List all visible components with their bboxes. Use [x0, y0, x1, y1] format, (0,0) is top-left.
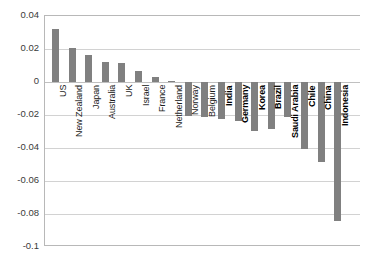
- y-axis-tick-label: -0.08: [0, 208, 39, 218]
- bar: [218, 82, 225, 119]
- bar: [168, 81, 175, 82]
- bar: [185, 82, 192, 116]
- bar: [152, 77, 159, 82]
- bar-chart: 0.040.020-0.02-0.04-0.06-0.08-0.1 USNew …: [0, 0, 378, 258]
- bar: [69, 48, 76, 82]
- bar: [268, 82, 275, 129]
- y-axis-tick-label: -0.1: [0, 241, 39, 251]
- bar: [135, 71, 142, 82]
- bar: [284, 82, 291, 117]
- bar: [118, 63, 125, 82]
- y-axis-tick-label: -0.04: [0, 142, 39, 152]
- bar: [301, 82, 308, 149]
- bar: [85, 55, 92, 82]
- bar: [318, 82, 325, 162]
- plot-area: USNew ZealandJapanAustraliaUKIsraelFranc…: [44, 15, 360, 246]
- y-axis-tick-label: 0.04: [0, 10, 39, 20]
- bar: [52, 29, 59, 82]
- y-axis-tick-label: -0.02: [0, 109, 39, 119]
- bar: [251, 82, 258, 131]
- y-axis-tick-label: 0.02: [0, 43, 39, 53]
- bar: [235, 82, 242, 121]
- bar: [201, 82, 208, 117]
- bars-layer: [45, 16, 360, 245]
- bar: [334, 82, 341, 221]
- y-axis-tick-label: -0.06: [0, 175, 39, 185]
- y-axis-tick-label: 0: [0, 76, 39, 86]
- bar: [102, 62, 109, 82]
